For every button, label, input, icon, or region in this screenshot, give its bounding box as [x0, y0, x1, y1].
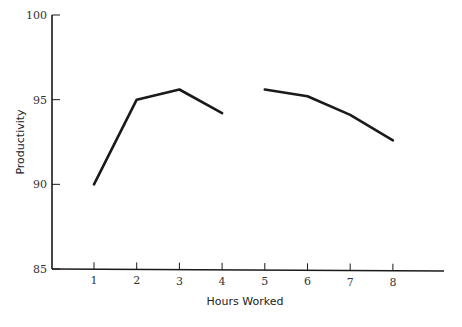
x-tick-label: 4: [219, 275, 226, 288]
x-tick-label: 3: [176, 275, 183, 288]
y-tick-label: 90: [33, 178, 47, 191]
data-lines: [94, 90, 393, 185]
x-tick-label: 7: [347, 276, 354, 289]
line-chart: 859095100 12345678 Hours Worked Producti…: [0, 0, 462, 327]
y-tick-label: 95: [33, 94, 47, 107]
y-axis-title: Productivity: [14, 109, 27, 175]
y-tick-label: 100: [26, 9, 47, 22]
x-tick-label: 1: [91, 274, 98, 287]
x-axis-ticks: 12345678: [91, 262, 397, 289]
productivity-line-segment: [265, 90, 393, 141]
x-tick-label: 5: [261, 275, 268, 288]
productivity-line-segment: [94, 90, 222, 185]
x-tick-label: 2: [133, 274, 140, 287]
y-tick-label: 85: [33, 263, 47, 276]
axes: [52, 15, 444, 271]
x-tick-label: 6: [304, 275, 311, 288]
x-axis-title: Hours Worked: [207, 295, 284, 308]
x-tick-label: 8: [389, 276, 396, 289]
y-axis-ticks: 859095100: [26, 9, 60, 276]
x-axis-line: [52, 269, 444, 271]
